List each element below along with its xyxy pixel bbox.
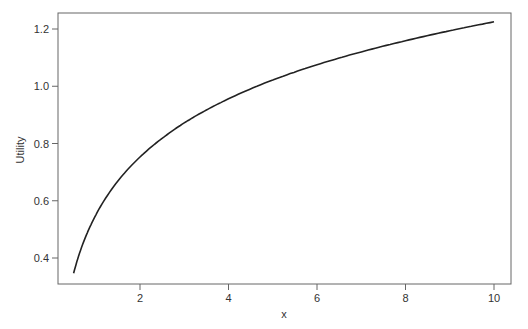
utility-curve (74, 22, 494, 273)
x-tick-label: 2 (137, 292, 143, 304)
x-tick-label: 10 (488, 292, 500, 304)
y-tick-label: 1.2 (34, 23, 49, 35)
plot-area (58, 13, 511, 284)
x-axis-label: x (281, 308, 287, 320)
x-tick-label: 4 (225, 292, 231, 304)
y-tick-label: 1.0 (34, 80, 49, 92)
x-axis: 246810 (137, 284, 500, 304)
y-axis-label: Utility (14, 136, 26, 163)
x-tick-label: 6 (314, 292, 320, 304)
y-axis: 0.40.60.81.01.2 (34, 23, 58, 264)
chart: 0.40.60.81.01.2 246810 x Utility (0, 0, 528, 329)
y-tick-label: 0.4 (34, 252, 49, 264)
y-tick-label: 0.8 (34, 138, 49, 150)
y-tick-label: 0.6 (34, 195, 49, 207)
x-tick-label: 8 (402, 292, 408, 304)
